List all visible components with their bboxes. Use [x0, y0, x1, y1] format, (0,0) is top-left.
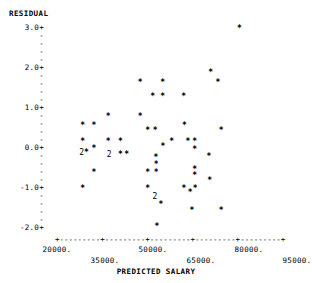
- y-axis-major-tick: 0.0+: [2, 144, 44, 152]
- data-point: *: [190, 207, 195, 215]
- y-axis-minor-tick: -: [2, 168, 44, 176]
- data-point: *: [159, 201, 164, 209]
- y-axis-minor-tick: -: [2, 112, 44, 120]
- x-axis-tick-label: 95000.: [271, 257, 312, 265]
- data-point: *: [188, 189, 193, 197]
- data-point: *: [219, 127, 224, 135]
- y-axis-major-tick: 3.0+: [2, 24, 44, 32]
- data-point: *: [106, 138, 111, 146]
- y-axis-minor-tick: -: [2, 200, 44, 208]
- data-point: *: [192, 146, 197, 154]
- y-axis-major-tick: 1.0+: [2, 104, 44, 112]
- residual-scatter-plot: RESIDUAL 3.0+----2.0+----1.0+----0.0+---…: [0, 0, 312, 283]
- data-point: *: [160, 143, 165, 151]
- data-point: *: [106, 113, 111, 121]
- x-axis-tick-label: 50000.: [127, 246, 179, 254]
- data-point: *: [154, 169, 159, 177]
- data-point: *: [154, 223, 159, 231]
- data-point: *: [124, 151, 129, 159]
- data-point: *: [181, 93, 186, 101]
- data-point: *: [182, 185, 187, 193]
- data-point: *: [182, 122, 187, 130]
- data-point: *: [91, 122, 96, 130]
- data-point: *: [193, 185, 198, 193]
- data-point: *: [91, 169, 96, 177]
- data-point: *: [237, 25, 242, 33]
- y-axis-title: RESIDUAL: [9, 10, 48, 18]
- data-point: *: [145, 185, 150, 193]
- y-axis-minor-tick: -: [2, 120, 44, 128]
- y-axis-major-tick: -1.0+: [2, 184, 44, 192]
- y-axis-minor-tick: -: [2, 208, 44, 216]
- y-axis-minor-tick: -: [2, 160, 44, 168]
- data-point: *: [84, 149, 89, 157]
- x-axis-tick-label: 35000.: [79, 257, 131, 265]
- data-point: *: [216, 79, 221, 87]
- data-point: *: [153, 154, 158, 162]
- data-point: *: [91, 145, 96, 153]
- data-point: *: [145, 127, 150, 135]
- y-axis-minor-tick: -: [2, 128, 44, 136]
- y-axis-minor-tick: -: [2, 152, 44, 160]
- x-axis-title: PREDICTED SALARY: [0, 268, 312, 276]
- data-point: *: [118, 151, 123, 159]
- data-point: *: [118, 138, 123, 146]
- x-axis-line: +---------+---------+---------+---------…: [55, 236, 285, 244]
- data-point: *: [80, 185, 85, 193]
- data-point-overlap: 2: [152, 193, 157, 201]
- y-axis-minor-tick: -: [2, 88, 44, 96]
- x-axis-tick-label: 80000.: [223, 246, 275, 254]
- x-axis-tick-label: 65000.: [175, 257, 227, 265]
- y-axis-major-tick: 2.0+: [2, 64, 44, 72]
- data-point: *: [160, 79, 165, 87]
- y-axis-minor-tick: -: [2, 80, 44, 88]
- data-point: *: [192, 172, 197, 180]
- data-point: *: [207, 153, 212, 161]
- data-point: *: [150, 93, 155, 101]
- y-axis-minor-tick: -: [2, 48, 44, 56]
- data-point: *: [160, 93, 165, 101]
- y-axis-minor-tick: -: [2, 192, 44, 200]
- data-point: *: [208, 69, 213, 77]
- data-point: *: [138, 79, 143, 87]
- data-point: *: [169, 138, 174, 146]
- y-axis-minor-tick: -: [2, 72, 44, 80]
- y-axis-minor-tick: -: [2, 40, 44, 48]
- data-point: *: [145, 169, 150, 177]
- x-axis-tick-label: 20000.: [31, 246, 83, 254]
- y-axis-minor-tick: -: [2, 32, 44, 40]
- data-point: *: [80, 138, 85, 146]
- data-point: *: [207, 177, 212, 185]
- data-point: *: [80, 122, 85, 130]
- data-point: *: [153, 127, 158, 135]
- y-axis-major-tick: -2.0+: [2, 224, 44, 232]
- data-point-overlap: 2: [107, 151, 112, 159]
- data-point: *: [219, 207, 224, 215]
- data-point: *: [138, 113, 143, 121]
- data-point: *: [185, 138, 190, 146]
